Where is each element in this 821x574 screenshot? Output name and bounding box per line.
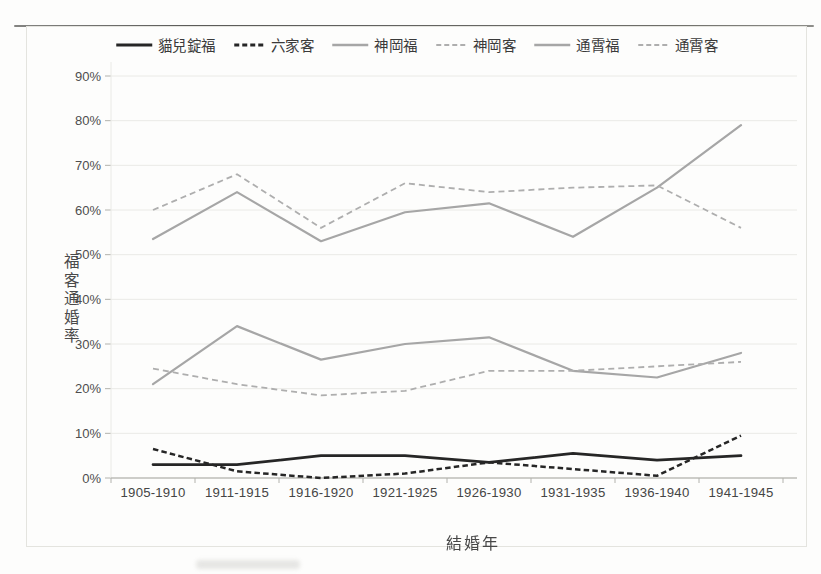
y-axis-title-char: 通 (63, 290, 81, 309)
scan-artifact (196, 560, 300, 569)
y-tick-label: 0% (82, 471, 101, 486)
y-tick-label: 60% (75, 203, 101, 218)
y-axis-title-char: 福 (63, 253, 81, 272)
y-axis-title: 福客通婚率 (63, 253, 81, 346)
plot-area: 0%10%20%30%40%50%60%70%80%90%1905-191019… (27, 27, 806, 546)
y-tick-label: 20% (75, 381, 101, 396)
series-line-4 (153, 362, 741, 396)
y-axis-title-char: 率 (63, 327, 81, 346)
series-line-3 (153, 326, 741, 384)
x-tick-label: 1911-1915 (205, 485, 269, 500)
y-tick-label: 80% (75, 113, 101, 128)
x-tick-label: 1941-1945 (709, 485, 774, 500)
y-tick-label: 70% (75, 158, 101, 173)
series-line-6 (153, 174, 741, 228)
y-tick-label: 90% (75, 69, 101, 84)
chart-frame: 貓兒錠福六家客神岡福神岡客通霄福通霄客 0%10%20%30%40%50%60%… (26, 26, 807, 547)
series-line-2 (153, 436, 741, 478)
x-tick-label: 1926-1930 (457, 485, 522, 500)
x-tick-label: 1931-1935 (541, 485, 606, 500)
x-axis-title: 結婚年 (137, 530, 809, 554)
y-axis-title-char: 客 (63, 272, 81, 291)
series-line-1 (153, 453, 741, 464)
x-tick-label: 1916-1920 (289, 485, 354, 500)
x-tick-label: 1936-1940 (625, 485, 690, 500)
x-tick-label: 1905-1910 (121, 485, 186, 500)
y-axis-title-char: 婚 (63, 309, 81, 328)
scanned-page: 貓兒錠福六家客神岡福神岡客通霄福通霄客 0%10%20%30%40%50%60%… (0, 0, 821, 574)
y-tick-label: 10% (75, 426, 101, 441)
series-line-5 (153, 125, 741, 241)
x-tick-label: 1921-1925 (373, 485, 438, 500)
